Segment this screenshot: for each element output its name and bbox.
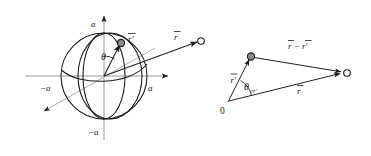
triangle-theta-label-group: θ rr′	[244, 81, 258, 94]
triangle-r-prime-label: r′	[231, 75, 238, 85]
triangle-r-label-group: r	[297, 86, 304, 97]
r-label-group: r	[174, 32, 181, 43]
axis-label-right: a	[148, 83, 153, 93]
vector-triangle-diagram: 0 r′ θ rr′ r − r′ r	[220, 41, 350, 117]
triangle-r-label: r	[297, 86, 301, 96]
difference-label: r − r′	[288, 41, 309, 51]
figure-canvas: a −a a −a θ r′ r	[0, 0, 371, 156]
axis-label-bottom: −a	[88, 127, 99, 137]
triangle-source-point	[247, 53, 254, 60]
triangle-field-point	[344, 70, 351, 77]
axis-label-top: a	[91, 19, 96, 29]
sphere-diagram: a −a a −a θ r′ r	[25, 16, 204, 140]
r-prime-label: r′	[128, 34, 135, 44]
triangle-theta-subscript: rr′	[251, 88, 258, 94]
r-prime-point	[117, 39, 124, 46]
triangle-r-prime-label-group: r′	[231, 74, 238, 85]
triangle-difference-vector	[254, 58, 341, 72]
theta-label: θ	[101, 51, 106, 62]
triangle-theta-label: θ	[244, 81, 249, 92]
origin-label: 0	[220, 106, 225, 116]
difference-label-group: r − r′	[288, 41, 312, 52]
physics-figure: a −a a −a θ r′ r	[0, 0, 371, 156]
r-label: r	[174, 32, 178, 42]
axis-label-left: −a	[40, 83, 51, 93]
r-prime-label-group: r′	[128, 34, 136, 45]
r-point	[198, 38, 205, 45]
